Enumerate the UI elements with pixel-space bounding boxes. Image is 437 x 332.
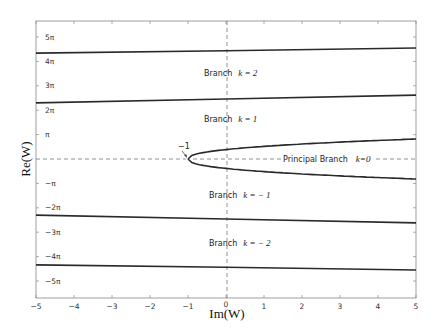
label-principal-branch: Principal Branchk=0 <box>283 154 371 164</box>
branch-curve <box>36 265 416 270</box>
y-tick-label: −5π <box>45 277 61 286</box>
y-tick-label: π <box>45 130 50 139</box>
x-axis-title: Im(W) <box>209 306 244 321</box>
x-tick-label: −3 <box>106 302 117 311</box>
x-tick-label: −5 <box>30 302 41 311</box>
label-branch-km2: Branchk = − 2 <box>209 238 271 248</box>
branch-curve <box>36 95 416 103</box>
x-tick-label: −4 <box>68 302 79 311</box>
y-tick-label: −3π <box>45 228 61 237</box>
cusp-label: −1 <box>178 142 190 151</box>
branch-plot: 5π4π3π2ππ−π−2π−3π−4π−5π −5−4−3−2−1012345… <box>0 0 437 332</box>
x-tick-label: 4 <box>376 302 381 311</box>
label-branch-km1: Branchk = − 1 <box>209 190 271 200</box>
x-tick-label: −1 <box>182 302 193 311</box>
branch-curve <box>36 48 416 53</box>
x-tick-label: 2 <box>300 302 305 311</box>
x-tick-label: 3 <box>338 302 343 311</box>
branch-curve <box>36 215 416 223</box>
y-tick-label: 4π <box>45 57 55 66</box>
x-tick-label: 1 <box>262 302 267 311</box>
label-branch-k2: Branchk = 2 <box>204 68 258 78</box>
cusp-arrow-head-icon <box>184 155 187 159</box>
y-tick-label: 5π <box>45 33 55 42</box>
y-tick-label: 2π <box>45 106 55 115</box>
label-branch-k1: Branchk = 1 <box>204 114 257 124</box>
y-axis-title: Re(W) <box>18 141 33 176</box>
y-tick-label: −π <box>45 179 56 188</box>
y-tick-label: −2π <box>45 203 61 212</box>
x-tick-label: −2 <box>144 302 155 311</box>
y-tick-label: 3π <box>45 81 55 90</box>
x-tick-label: 5 <box>414 302 419 311</box>
y-tick-label: −4π <box>45 252 61 261</box>
